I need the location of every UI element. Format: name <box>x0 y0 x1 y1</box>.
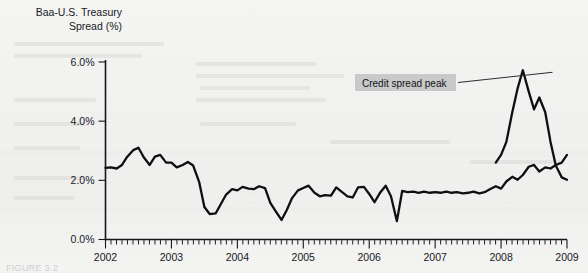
x-tick-label: 2004 <box>226 251 250 263</box>
y-axis: 0.0%2.0%4.0%6.0% <box>71 56 106 246</box>
annotation-leader-line <box>458 72 552 82</box>
chart-svg: Baa-U.S. Treasury Spread (%) 0.0%2.0%4.0… <box>0 0 588 273</box>
y-tick-label: 6.0% <box>71 56 95 68</box>
chart-axes <box>106 60 568 240</box>
x-tick-label: 2008 <box>489 251 513 263</box>
data-series-group <box>106 70 568 221</box>
credit-spread-peak-annotation: Credit spread peak <box>355 72 552 91</box>
x-tick-label: 2009 <box>555 251 579 263</box>
x-tick-label: 2007 <box>423 251 447 263</box>
x-tick-label: 2006 <box>358 251 382 263</box>
y-axis-title-line1: Baa-U.S. Treasury <box>36 6 123 18</box>
figure-caption: FIGURE 3.2 <box>6 263 58 273</box>
x-tick-label: 2005 <box>292 251 316 263</box>
annotation-label: Credit spread peak <box>362 78 447 89</box>
y-tick-label: 0.0% <box>71 233 95 245</box>
x-tick-label: 2002 <box>94 251 118 263</box>
series-line-1 <box>496 70 567 179</box>
y-tick-label: 4.0% <box>71 115 95 127</box>
y-axis-title-line2: Spread (%) <box>69 20 122 32</box>
x-axis: 20022003200420052006200720082009 <box>94 240 579 263</box>
credit-spread-chart: Baa-U.S. Treasury Spread (%) 0.0%2.0%4.0… <box>0 0 588 273</box>
x-tick-label: 2003 <box>160 251 184 263</box>
y-tick-label: 2.0% <box>71 174 95 186</box>
